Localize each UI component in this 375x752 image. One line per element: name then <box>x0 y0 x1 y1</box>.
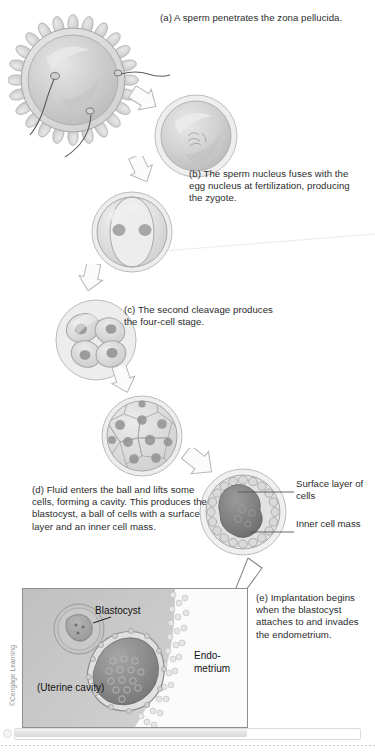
two-cell-stage-illustration <box>88 188 176 276</box>
copyright-notice: ©Cengage Learning <box>9 640 16 712</box>
panel-label-blastocyst: Blastocyst <box>95 605 141 617</box>
blastomere-nucleus <box>139 224 152 236</box>
scan-artifact-line <box>0 228 375 252</box>
label-surface-layer-of-cells: Surface layer of cells <box>296 478 370 502</box>
morula-illustration <box>98 392 186 480</box>
caption-e: (e) Implantation begins when the blastoc… <box>256 592 368 641</box>
scroll-left-button[interactable] <box>3 729 12 738</box>
caption-d: (d) Fluid enters the ball and lifts some… <box>32 484 212 533</box>
blastomere-nucleus <box>113 224 126 236</box>
embryo-development-figure: (a) A sperm penetrates the zona pellucid… <box>0 0 375 752</box>
caption-b: (b) The sperm nucleus fuses with the egg… <box>189 168 354 205</box>
implantation-panel: Blastocyst Endo- metrium (Uterine cavity… <box>22 588 248 728</box>
scrollbar-thumb[interactable] <box>15 729 247 737</box>
caption-c: (c) The second cleavage produces the fou… <box>124 304 274 328</box>
label-inner-cell-mass: Inner cell mass <box>296 518 370 530</box>
caption-a: (a) A sperm penetrates the zona pellucid… <box>160 12 370 24</box>
page-edge-dotted-rule <box>0 744 375 747</box>
zygote-illustration <box>152 92 240 180</box>
horizontal-scrollbar[interactable] <box>14 728 361 740</box>
blastocyst-leader-lines <box>236 484 300 556</box>
panel-label-uterine-cavity: (Uterine cavity) <box>37 681 107 694</box>
panel-label-endometrium: Endo- metrium <box>194 649 238 675</box>
